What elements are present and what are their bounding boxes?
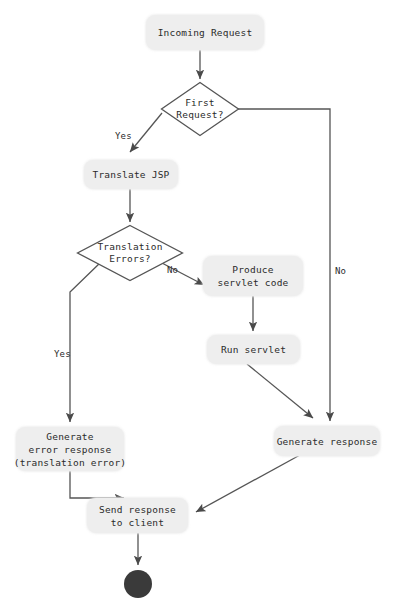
node-send-response-to-client-label: Send response to client [99, 503, 176, 529]
edge-label-first-request-yes: Yes [115, 131, 132, 141]
edge-error-response-to-send [70, 470, 124, 498]
node-generate-response-label: Generate response [277, 435, 378, 448]
node-generate-error-response[interactable]: Generate error response (translation err… [16, 427, 124, 471]
flowchart-canvas: Incoming Request First Request? Translat… [0, 0, 397, 615]
node-incoming-request[interactable]: Incoming Request [146, 15, 264, 50]
page-bottom-margin [0, 605, 397, 615]
node-translation-errors-label: Translation Errors? [97, 241, 162, 265]
node-produce-servlet-code[interactable]: Produce servlet code [203, 256, 303, 296]
node-first-request-label: First Request? [176, 97, 223, 121]
node-incoming-request-label: Incoming Request [158, 26, 253, 39]
node-send-response-to-client[interactable]: Send response to client [87, 498, 188, 533]
node-produce-servlet-code-label: Produce servlet code [217, 263, 288, 289]
edge-label-first-request-no: No [335, 266, 346, 276]
node-run-servlet[interactable]: Run servlet [207, 335, 300, 364]
edge-label-translation-errors-yes: Yes [54, 349, 71, 359]
edge-run-to-generate-response [247, 364, 313, 418]
node-end-state[interactable] [124, 570, 152, 598]
node-translate-jsp[interactable]: Translate JSP [84, 160, 178, 189]
edge-errors-yes-to-error-response [70, 262, 101, 422]
node-run-servlet-label: Run servlet [221, 343, 286, 356]
edge-label-translation-errors-no: No [167, 265, 178, 275]
node-generate-error-response-label: Generate error response (translation err… [14, 430, 126, 469]
node-first-request[interactable]: First Request? [160, 81, 240, 137]
edge-first-yes-to-translate [130, 113, 162, 152]
edge-generate-response-to-send [196, 455, 300, 512]
node-generate-response[interactable]: Generate response [274, 426, 380, 456]
node-translate-jsp-label: Translate JSP [93, 168, 170, 181]
